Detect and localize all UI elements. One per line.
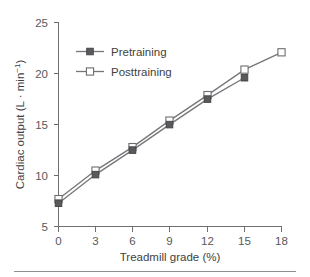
y-axis-title-tail: ) [14, 60, 26, 64]
x-tick-label: 0 [55, 235, 61, 247]
data-point-posttraining [241, 66, 248, 73]
x-tick-labels: 0 3 6 9 12 15 18 [55, 235, 288, 247]
y-tick-label: 5 [42, 221, 48, 233]
data-point-pretraining [92, 171, 99, 178]
data-point-pretraining [204, 96, 211, 103]
data-point-pretraining [241, 74, 248, 81]
y-tick-label: 10 [35, 170, 48, 182]
y-tick-label: 25 [35, 17, 48, 29]
y-axis-title-main: Cardiac output (L · min [14, 73, 26, 190]
data-point-pretraining [55, 200, 62, 207]
legend-label-posttraining: Posttraining [111, 66, 172, 78]
x-tick-label: 15 [238, 235, 251, 247]
series-pretraining [55, 74, 248, 206]
x-tick-label: 9 [166, 235, 172, 247]
y-tick-label: 15 [35, 119, 48, 131]
data-point-posttraining [278, 49, 285, 56]
y-tick-labels: 5 10 15 20 25 [35, 17, 48, 233]
x-tick-label: 6 [129, 235, 135, 247]
figure-container: 5 10 15 20 25 0 3 6 9 12 15 18 Treadmill… [0, 0, 310, 277]
chart-legend: Pretraining Posttraining [76, 46, 172, 78]
legend-label-pretraining: Pretraining [111, 46, 167, 58]
legend-entry-pretraining: Pretraining [76, 46, 167, 58]
data-point-pretraining [166, 121, 173, 128]
x-axis-title: Treadmill grade (%) [120, 251, 221, 263]
x-axis-ticks [59, 227, 282, 232]
legend-marker-posttraining [86, 68, 93, 75]
x-tick-label: 3 [92, 235, 98, 247]
x-tick-label: 18 [275, 235, 288, 247]
data-point-pretraining [129, 147, 136, 154]
legend-entry-posttraining: Posttraining [76, 66, 172, 78]
y-tick-label: 20 [35, 68, 48, 80]
y-axis-title: Cardiac output (L · min−1) [13, 60, 26, 190]
cardiac-output-line-chart: 5 10 15 20 25 0 3 6 9 12 15 18 Treadmill… [0, 0, 310, 277]
x-tick-label: 12 [201, 235, 214, 247]
legend-marker-pretraining [87, 48, 94, 55]
series-pretraining-line [59, 78, 245, 204]
